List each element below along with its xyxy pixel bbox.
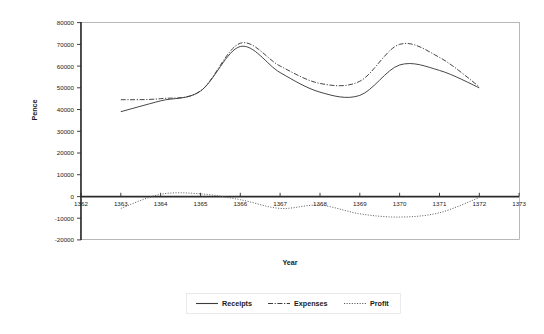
- x-tick-label: 1364: [154, 200, 168, 207]
- y-tick-label: 20000: [57, 149, 75, 156]
- y-tick-label: 10000: [57, 171, 75, 178]
- legend-label-expenses: Expenses: [294, 299, 328, 308]
- legend-label-receipts: Receipts: [222, 299, 252, 308]
- y-tick-label: 40000: [57, 106, 75, 113]
- chart-legend: Receipts Expenses Profit: [187, 294, 401, 314]
- x-tick-label: 1365: [194, 200, 208, 207]
- x-tick-label: 1371: [433, 200, 447, 207]
- x-tick-label: 1367: [273, 200, 287, 207]
- y-tick-label: 70000: [57, 41, 75, 48]
- line-chart: 80000 70000 60000 50000 40000 30000 2000…: [0, 0, 544, 334]
- y-tick-label: 50000: [57, 84, 75, 91]
- x-tick-label: 1373: [512, 200, 526, 207]
- x-tick-label: 1362: [74, 200, 88, 207]
- x-tick-label: 1372: [472, 200, 486, 207]
- y-tick-label: 30000: [57, 128, 75, 135]
- x-tick-label: 1368: [313, 200, 327, 207]
- x-axis-title: Year: [282, 258, 297, 267]
- legend-label-profit: Profit: [370, 299, 389, 308]
- x-tick-label: 1366: [233, 200, 247, 207]
- y-tick-label: 60000: [57, 63, 75, 70]
- y-tick-label: -10000: [55, 215, 75, 222]
- y-tick-label: 80000: [57, 19, 75, 26]
- chart-container: 80000 70000 60000 50000 40000 30000 2000…: [0, 0, 544, 334]
- y-tick-label: 0: [71, 193, 75, 200]
- y-tick-label: -20000: [55, 236, 75, 243]
- x-tick-label: 1370: [393, 200, 407, 207]
- y-axis-title: Pence: [30, 99, 39, 120]
- x-tick-label: 1369: [353, 200, 367, 207]
